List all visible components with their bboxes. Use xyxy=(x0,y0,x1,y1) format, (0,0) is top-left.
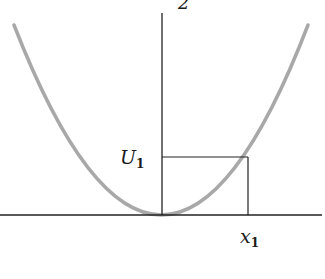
parabola-diagram: 2 U1 x1 xyxy=(0,0,325,279)
top-label-fragment: 2 xyxy=(177,0,189,13)
x1-label: x1 xyxy=(240,225,259,250)
u1-label: U1 xyxy=(120,146,144,171)
parabola-curve xyxy=(14,25,308,215)
